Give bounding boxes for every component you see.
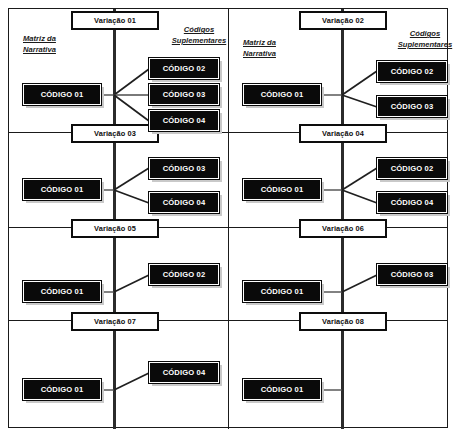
panel-variacao-06[interactable]: Variação 06 CÓDIGO 01 CÓDIGO 03 <box>228 228 447 320</box>
code-box-main[interactable]: CÓDIGO 01 <box>243 84 321 105</box>
panel-title-variacao-01: Variação 01 <box>71 11 159 30</box>
code-box-supplementary[interactable]: CÓDIGO 04 <box>149 362 219 383</box>
code-box-main[interactable]: CÓDIGO 01 <box>243 179 321 200</box>
panel-variacao-02[interactable]: Variação 02 Matriz da Narrativa Códigos … <box>228 9 447 132</box>
panel-title-variacao-06: Variação 06 <box>299 219 387 238</box>
code-box-supplementary[interactable]: CÓDIGO 02 <box>149 264 219 285</box>
panel-title-variacao-05: Variação 05 <box>71 219 159 238</box>
panel-variacao-04[interactable]: Variação 04 CÓDIGO 01 CÓDIGO 02 CÓDIGO 0… <box>228 133 447 227</box>
panel-variacao-03[interactable]: Variação 03 CÓDIGO 01 CÓDIGO 03 CÓDIGO 0… <box>9 133 228 227</box>
code-box-main[interactable]: CÓDIGO 01 <box>23 84 101 105</box>
code-box-main[interactable]: CÓDIGO 01 <box>23 281 101 302</box>
code-box-main[interactable]: CÓDIGO 01 <box>243 379 321 400</box>
matrix-row: Variação 07 CÓDIGO 01 CÓDIGO 04 Variação… <box>9 320 447 429</box>
column-header-matriz: Matriz da Narrativa <box>23 33 93 55</box>
variation-matrix-grid: Variação 01 Matriz da Narrativa Códigos … <box>8 8 448 428</box>
code-box-main[interactable]: CÓDIGO 01 <box>23 379 101 400</box>
panel-variacao-07[interactable]: Variação 07 CÓDIGO 01 CÓDIGO 04 <box>9 321 228 429</box>
column-header-codigos-line2: Suplementares <box>398 40 452 49</box>
code-box-supplementary[interactable]: CÓDIGO 02 <box>149 58 219 79</box>
code-box-main[interactable]: CÓDIGO 01 <box>243 281 321 302</box>
code-box-supplementary[interactable]: CÓDIGO 02 <box>377 158 447 179</box>
connector-lines <box>229 321 447 429</box>
matrix-row: Variação 05 CÓDIGO 01 CÓDIGO 02 Variação… <box>9 227 447 320</box>
code-box-main[interactable]: CÓDIGO 01 <box>23 179 101 200</box>
panel-title-variacao-03: Variação 03 <box>71 124 159 143</box>
column-header-matriz-line2: Narrativa <box>23 45 56 54</box>
panel-variacao-05[interactable]: Variação 05 CÓDIGO 01 CÓDIGO 02 <box>9 228 228 320</box>
panel-title-variacao-04: Variação 04 <box>299 124 387 143</box>
column-header-codigos-line1: Códigos <box>410 29 440 38</box>
column-header-matriz-line1: Matriz da <box>243 38 276 47</box>
code-box-supplementary[interactable]: CÓDIGO 02 <box>377 61 447 82</box>
panel-title-variacao-07: Variação 07 <box>71 312 159 331</box>
panel-variacao-08[interactable]: Variação 08 CÓDIGO 01 <box>228 321 447 429</box>
code-box-supplementary[interactable]: CÓDIGO 03 <box>149 158 219 179</box>
panel-title-variacao-02: Variação 02 <box>299 11 387 30</box>
panel-variacao-01[interactable]: Variação 01 Matriz da Narrativa Códigos … <box>9 9 228 132</box>
column-header-matriz: Matriz da Narrativa <box>243 37 313 59</box>
code-box-supplementary[interactable]: CÓDIGO 04 <box>149 192 219 213</box>
panel-title-variacao-08: Variação 08 <box>299 312 387 331</box>
code-box-supplementary[interactable]: CÓDIGO 04 <box>149 110 219 131</box>
column-header-codigos: Códigos Suplementares <box>383 28 456 50</box>
column-header-codigos-line1: Códigos <box>184 25 214 34</box>
code-box-supplementary[interactable]: CÓDIGO 04 <box>377 192 447 213</box>
matrix-row: Variação 03 CÓDIGO 01 CÓDIGO 03 CÓDIGO 0… <box>9 132 447 227</box>
code-box-supplementary[interactable]: CÓDIGO 03 <box>149 84 219 105</box>
matrix-row: Variação 01 Matriz da Narrativa Códigos … <box>9 9 447 132</box>
column-header-matriz-line2: Narrativa <box>243 49 276 58</box>
code-box-supplementary[interactable]: CÓDIGO 03 <box>377 264 447 285</box>
column-header-matriz-line1: Matriz da <box>23 34 56 43</box>
code-box-supplementary[interactable]: CÓDIGO 03 <box>377 96 447 117</box>
column-header-codigos: Códigos Suplementares <box>157 24 241 46</box>
column-header-codigos-line2: Suplementares <box>172 36 226 45</box>
